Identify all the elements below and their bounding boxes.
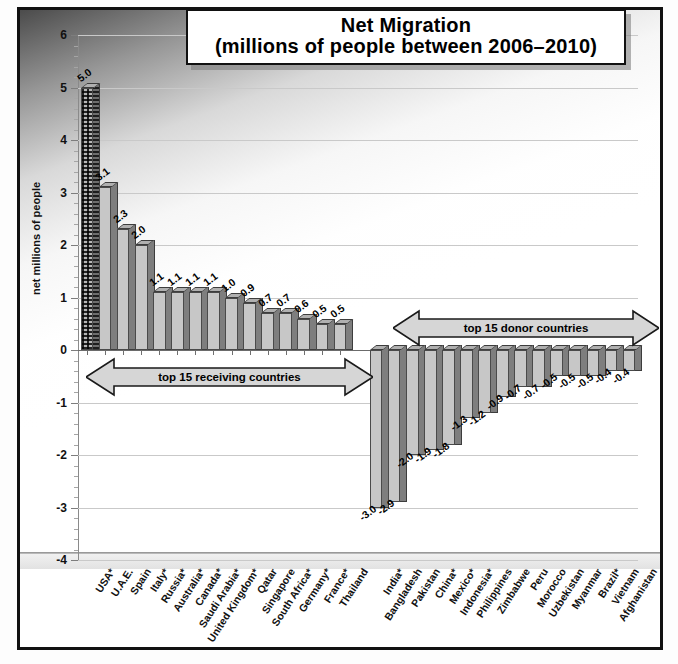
- bar-front-face: [171, 292, 184, 350]
- y-axis-minor-tick: [74, 308, 78, 309]
- y-axis-tick: [71, 403, 78, 404]
- plot-area: 6543210-1-2-3-4 5.03.12.32.01.11.11.11.1…: [78, 35, 638, 560]
- gridline: [78, 193, 638, 194]
- y-axis-tick-label: 3: [60, 186, 67, 200]
- x-axis-tick: [232, 350, 233, 355]
- bar-front-face: [279, 313, 292, 350]
- x-axis-tick: [123, 350, 124, 355]
- y-axis-minor-tick: [74, 203, 78, 204]
- y-axis-minor-tick: [74, 382, 78, 383]
- y-axis-minor-tick: [74, 67, 78, 68]
- y-axis-minor-tick: [74, 277, 78, 278]
- y-axis-tick-label: -1: [56, 396, 67, 410]
- y-axis-minor-tick: [74, 466, 78, 467]
- y-axis-tick-label: 1: [60, 291, 67, 305]
- y-axis-minor-tick: [74, 487, 78, 488]
- bar: [243, 303, 256, 350]
- x-axis-tick: [286, 350, 287, 355]
- x-axis-tick: [304, 350, 305, 355]
- chart-subtitle: (millions of people between 2006–2010): [198, 36, 614, 57]
- y-axis-tick-label: 0: [60, 343, 67, 357]
- y-axis-minor-tick: [74, 371, 78, 372]
- bar-value-label: 1.1: [201, 270, 220, 288]
- bar: [279, 313, 292, 350]
- bar-front-face: [316, 324, 329, 350]
- y-axis-minor-tick: [74, 172, 78, 173]
- chart-title-box: Net Migration (millions of people betwee…: [186, 9, 626, 65]
- y-axis-minor-tick: [74, 151, 78, 152]
- bar: [297, 319, 310, 351]
- bar-front-face: [297, 319, 310, 351]
- y-axis-tick-label: -4: [56, 553, 67, 567]
- bar-value-label: 0.7: [273, 291, 292, 309]
- x-axis-tick: [159, 350, 160, 355]
- x-axis-tick: [177, 350, 178, 355]
- y-axis-minor-tick: [74, 529, 78, 530]
- gridline: [78, 455, 638, 456]
- y-axis-minor-tick: [74, 361, 78, 362]
- bar: [99, 187, 112, 350]
- y-axis-minor-tick: [74, 235, 78, 236]
- y-axis-minor-tick: [74, 424, 78, 425]
- x-axis-tick: [195, 350, 196, 355]
- bar: [424, 350, 437, 450]
- y-axis-minor-tick: [74, 46, 78, 47]
- bar-front-face: [99, 187, 112, 350]
- y-axis-tick: [71, 140, 78, 141]
- gridline: [78, 560, 638, 561]
- bar-front-face: [460, 350, 473, 418]
- y-axis-minor-tick: [74, 497, 78, 498]
- y-axis-minor-tick: [74, 539, 78, 540]
- y-axis-tick-label: 4: [60, 133, 67, 147]
- y-axis-minor-tick: [74, 434, 78, 435]
- x-axis-tick: [340, 350, 341, 355]
- y-axis-minor-tick: [74, 214, 78, 215]
- y-axis-minor-tick: [74, 266, 78, 267]
- y-axis-minor-tick: [74, 256, 78, 257]
- y-axis-minor-tick: [74, 550, 78, 551]
- annotation-arrow-donor: top 15 donor countries: [393, 309, 659, 347]
- y-axis-minor-tick: [74, 340, 78, 341]
- bar: [261, 313, 274, 350]
- y-axis-minor-tick: [74, 130, 78, 131]
- y-axis-minor-tick: [74, 182, 78, 183]
- gridline: [78, 403, 638, 404]
- gridline: [78, 508, 638, 509]
- bar-front-face: [135, 245, 148, 350]
- y-axis-minor-tick: [74, 518, 78, 519]
- bar-front-face: [388, 350, 401, 502]
- y-axis-minor-tick: [74, 445, 78, 446]
- bar-front-face: [207, 292, 220, 350]
- y-axis-minor-tick: [74, 224, 78, 225]
- y-axis-minor-tick: [74, 392, 78, 393]
- y-axis-minor-tick: [74, 476, 78, 477]
- bar: [81, 88, 94, 351]
- x-axis-tick: [250, 350, 251, 355]
- x-axis-tick: [322, 350, 323, 355]
- x-axis-tick: [141, 350, 142, 355]
- bar: [388, 350, 401, 502]
- y-axis-tick-label: 2: [60, 238, 67, 252]
- y-axis-tick: [71, 193, 78, 194]
- y-axis-tick: [71, 298, 78, 299]
- y-axis-tick-label: -2: [56, 448, 67, 462]
- y-axis-minor-tick: [74, 98, 78, 99]
- bar: [189, 292, 202, 350]
- y-axis-minor-tick: [74, 109, 78, 110]
- bar: [406, 350, 419, 455]
- y-axis-minor-tick: [74, 56, 78, 57]
- x-axis-tick: [105, 350, 106, 355]
- x-axis-tick: [268, 350, 269, 355]
- x-axis-tick: [213, 350, 214, 355]
- y-axis-minor-tick: [74, 319, 78, 320]
- chart-title: Net Migration: [198, 15, 614, 36]
- y-axis-tick-label: 5: [60, 81, 67, 95]
- bar-value-label: 1.1: [165, 270, 184, 288]
- x-axis-tick: [87, 350, 88, 355]
- gridline: [78, 245, 638, 246]
- bar: [171, 292, 184, 350]
- bar: [334, 324, 347, 350]
- bar-front-face: [424, 350, 437, 450]
- y-axis-tick: [71, 35, 78, 36]
- bar-front-face: [225, 298, 238, 351]
